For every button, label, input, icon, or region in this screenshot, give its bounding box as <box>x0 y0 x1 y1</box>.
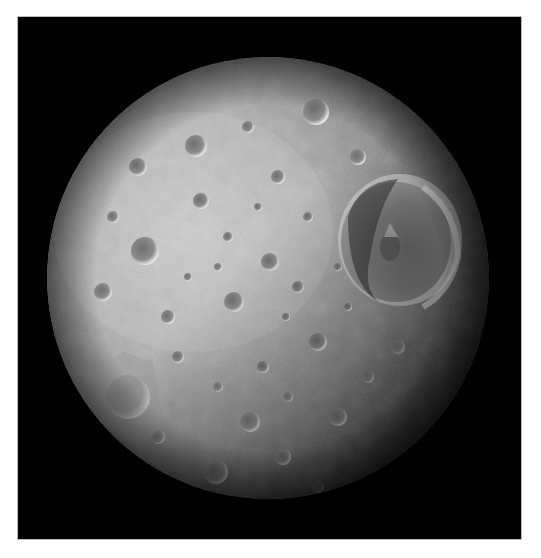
moon-image-canvas <box>18 17 521 539</box>
caption <box>18 541 521 555</box>
page <box>0 0 541 558</box>
moon-sphere <box>47 57 489 499</box>
moon-photograph <box>18 17 521 539</box>
